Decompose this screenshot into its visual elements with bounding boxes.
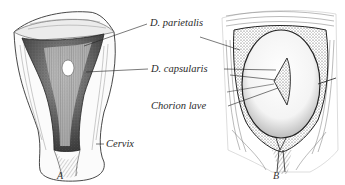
label-d-capsularis: D. capsularis xyxy=(151,64,208,75)
panel-b-drawing xyxy=(200,11,338,174)
label-chorion-lave: Chorion lave xyxy=(151,101,206,112)
label-d-parietalis: D. parietalis xyxy=(150,18,203,29)
anatomical-figure: D. parietalis D. capsularis Chorion lave… xyxy=(0,0,345,185)
panel-letter-a: A xyxy=(57,171,63,181)
panel-letter-b: B xyxy=(273,171,279,181)
label-cervix: Cervix xyxy=(106,139,134,150)
panel-a-drawing xyxy=(14,12,148,181)
implantation-site xyxy=(62,60,74,76)
